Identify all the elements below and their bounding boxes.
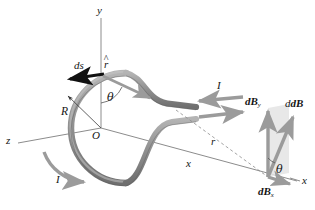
z-axis [18, 128, 101, 143]
current-label-loop: I [56, 174, 60, 185]
radius-label: R [61, 106, 68, 118]
loop-ring-highlight [70, 72, 125, 182]
r-hat-label: ^r [104, 59, 108, 70]
z-axis-label: z [6, 135, 10, 146]
dBx-label: dBx [258, 186, 274, 198]
dB-label-text: dB [291, 97, 304, 109]
r-distance-label: r [211, 136, 215, 147]
origin-label: O [92, 130, 100, 141]
dBy-label-sub: y [258, 101, 261, 108]
dBy-label: dBy [245, 96, 261, 108]
dBx-label-text: dB [258, 185, 271, 197]
dB-label: ddB [285, 98, 303, 109]
x-distance-label: x [186, 158, 191, 169]
current-label-lead: I [217, 80, 221, 91]
dBx-label-sub: x [271, 191, 274, 198]
x-axis-label: x [302, 175, 307, 186]
figure-canvas [0, 0, 315, 210]
theta-field-label: θ [276, 164, 283, 175]
current-arrow-inbound [199, 97, 243, 101]
ds-label: ds [74, 60, 84, 71]
current-arrow-outbound [199, 112, 243, 117]
y-axis-label: y [97, 5, 102, 16]
loop-lead-upper [126, 73, 196, 107]
theta-loop-label: θ [107, 92, 114, 103]
physics-figure-current-loop: y x z O R ds ^r θ I I r x ddB dBy dBx θ [0, 0, 315, 210]
dBy-label-text: dB [245, 95, 258, 107]
r-hat-caret: ^ [104, 54, 109, 64]
